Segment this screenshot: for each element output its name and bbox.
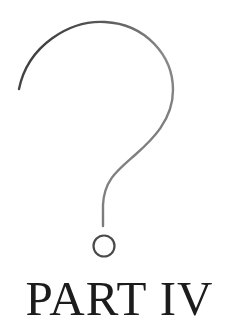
question-mark-icon <box>0 0 239 270</box>
question-mark-dot <box>94 236 115 257</box>
part-title: PART IV <box>0 273 239 325</box>
question-mark-curve <box>19 22 173 226</box>
